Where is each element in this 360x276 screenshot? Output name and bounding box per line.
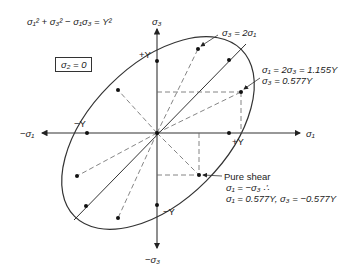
sigma1-axis-label: σ₁ [306, 128, 315, 139]
sigma3-2sigma1-label: σ₃ = 2σ₁ [222, 27, 256, 38]
sigma1-2sigma3-label-1: σ₁ = 2σ₃ = 1.155Y [262, 64, 337, 75]
major-axis-line [74, 44, 246, 220]
sigma3-axis-label: σ₃ [152, 16, 162, 27]
sigma1-2sigma3-label-2: σ₃ = 0.577Y [262, 75, 312, 86]
pure-shear-line-1: σ₁ = −σ₃ ∴ [226, 182, 269, 193]
neg-sigma3-axis-label: −σ₃ [145, 254, 160, 265]
sigma2-condition-box: σ₂ = 0 [55, 57, 92, 72]
pure-shear-line-2: σ₁ = 0.577Y, σ₃ = −0.577Y [226, 193, 336, 204]
x-left-intercept: −Y [74, 118, 86, 129]
x-right-intercept: +Y [232, 136, 244, 147]
y-bottom-intercept: −Y [163, 206, 175, 217]
y-top-intercept: +Y [139, 49, 151, 60]
neg-sigma1-axis-label: −σ₁ [20, 128, 34, 139]
yield-equation: σ₁² + σ₃² − σ₁σ₃ = Y² [27, 16, 112, 27]
pure-shear-title: Pure shear [224, 171, 270, 182]
